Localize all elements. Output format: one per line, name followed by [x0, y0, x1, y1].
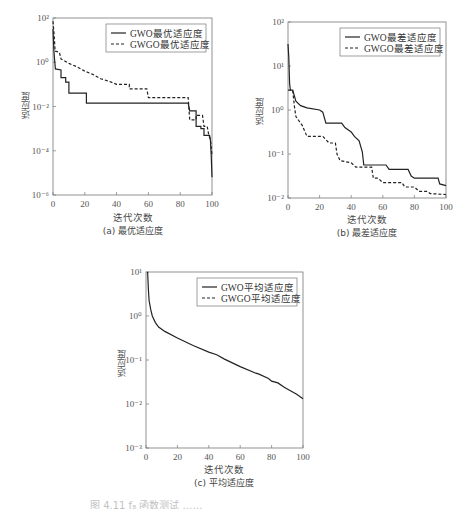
x-tick-label: 20 — [315, 202, 325, 212]
chart-c-legend: GWO平均适应度GWGO平均适应度 — [197, 278, 301, 306]
x-tick-label: 40 — [112, 199, 122, 209]
x-tick-label: 80 — [176, 199, 186, 209]
y-tick-label: 10⁰ — [129, 311, 142, 321]
legend-entry: GWGO最优适应度 — [130, 39, 210, 50]
legend-entry: GWGO平均适应度 — [221, 293, 301, 304]
chart-a-ylabel: 适应度 — [18, 92, 31, 119]
x-tick-label: 20 — [173, 452, 183, 462]
y-tick-label: 10² — [37, 13, 49, 23]
chart-a-plot: 02040608010010²10⁰10⁻²10⁻⁴10⁻⁶GWO最优适应度GW… — [0, 0, 234, 240]
x-tick-label: 0 — [51, 199, 56, 209]
x-tick-label: 20 — [80, 199, 90, 209]
y-tick-label: 10⁻² — [125, 399, 142, 409]
x-tick-label: 60 — [378, 202, 388, 212]
x-tick-label: 80 — [410, 202, 420, 212]
y-tick-label: 10² — [272, 17, 284, 27]
x-tick-label: 100 — [296, 452, 310, 462]
chart-c-caption: (c) 平均适应度 — [184, 476, 264, 489]
chart-a-xlabel: 迭代次数 — [108, 210, 158, 224]
chart-c: 02040608010010¹10⁰10⁻¹10⁻²10⁻³GWO平均适应度GW… — [0, 240, 468, 490]
x-tick-label: 0 — [286, 202, 291, 212]
x-tick-label: 60 — [144, 199, 154, 209]
chart-b-xlabel: 迭代次数 — [342, 212, 392, 226]
y-tick-label: 10⁻² — [32, 102, 49, 112]
y-tick-label: 10⁻⁶ — [32, 190, 49, 200]
chart-b: 02040608010010²10¹10⁰10⁻¹10⁻²GWO最差适应度GWG… — [234, 0, 468, 240]
y-tick-label: 10¹ — [130, 267, 142, 277]
chart-b-legend: GWO最差适应度GWGO最差适应度 — [340, 28, 444, 56]
y-tick-label: 10⁻¹ — [125, 355, 142, 365]
chart-a-caption: (a) 最优适应度 — [93, 224, 173, 237]
x-tick-label: 60 — [236, 452, 246, 462]
chart-b-plot: 02040608010010²10¹10⁰10⁻¹10⁻²GWO最差适应度GWG… — [234, 0, 468, 240]
legend-entry: GWGO最差适应度 — [364, 43, 444, 54]
chart-a: 02040608010010²10⁰10⁻²10⁻⁴10⁻⁶GWO最优适应度GW… — [0, 0, 234, 240]
x-tick-label: 40 — [204, 452, 214, 462]
y-tick-label: 10⁻⁴ — [32, 146, 49, 156]
legend-entry: GWO平均适应度 — [221, 282, 294, 293]
x-tick-label: 100 — [205, 199, 219, 209]
chart-c-ylabel: 适应度 — [114, 350, 127, 377]
y-tick-label: 10⁰ — [271, 105, 284, 115]
chart-b-ylabel: 适应度 — [252, 98, 265, 125]
legend-entry: GWO最优适应度 — [130, 28, 203, 39]
y-tick-label: 10⁰ — [36, 57, 49, 67]
x-tick-label: 0 — [144, 452, 149, 462]
figure-caption-partial: 图 4.11 f₈ 函数测试 …… — [90, 497, 390, 509]
y-tick-label: 10⁻¹ — [267, 149, 284, 159]
x-tick-label: 100 — [439, 202, 453, 212]
y-tick-label: 10⁻² — [267, 193, 284, 203]
x-tick-label: 40 — [347, 202, 357, 212]
chart-c-plot: 02040608010010¹10⁰10⁻¹10⁻²10⁻³GWO平均适应度GW… — [0, 240, 468, 490]
y-tick-label: 10⁻³ — [125, 443, 142, 453]
series-gwo-line — [288, 44, 446, 186]
legend-entry: GWO最差适应度 — [364, 32, 437, 43]
y-tick-label: 10¹ — [272, 61, 284, 71]
chart-b-caption: (b) 最差适应度 — [327, 226, 407, 239]
series-gwgo-line — [288, 90, 446, 194]
x-tick-label: 80 — [267, 452, 277, 462]
chart-c-xlabel: 迭代次数 — [199, 462, 249, 476]
chart-a-legend: GWO最优适应度GWGO最优适应度 — [106, 24, 210, 52]
